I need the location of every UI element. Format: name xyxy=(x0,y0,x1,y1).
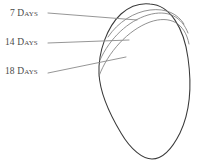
growth-arc-18-days-path xyxy=(99,20,189,76)
stage-label-18-days: 18 Days xyxy=(5,66,38,76)
stage-label-7-days: 7 Days xyxy=(10,8,38,18)
egg-outline-path xyxy=(99,4,190,159)
stage-label-18-days-number: 18 xyxy=(5,66,15,76)
egg-growth-diagram: 7 Days 14 Days 18 Days xyxy=(0,0,210,165)
stage-label-14-days-number: 14 xyxy=(5,37,15,47)
stage-label-14-days-unit: Days xyxy=(17,37,38,47)
diagram-canvas xyxy=(0,0,210,165)
leader-line-14-days xyxy=(48,40,129,43)
stage-label-7-days-unit: Days xyxy=(17,8,38,18)
stage-label-18-days-unit: Days xyxy=(17,66,38,76)
stage-label-14-days: 14 Days xyxy=(5,37,38,47)
leader-line-7-days xyxy=(48,13,137,20)
leader-line-18-days xyxy=(48,57,126,73)
